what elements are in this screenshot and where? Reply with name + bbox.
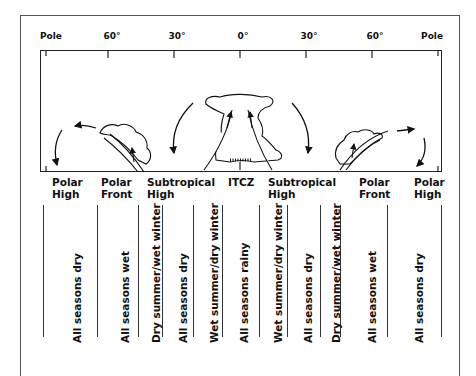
precipitation-regime-label: Dry summer/wet winter bbox=[330, 203, 342, 343]
precipitation-regime-label: All seasons rainy bbox=[238, 243, 250, 343]
pressure-zone-label: PolarFront bbox=[359, 176, 390, 200]
zone-name-line1: Polar bbox=[414, 176, 445, 188]
precipitation-regime-label: Dry summer/wet winter bbox=[150, 203, 162, 343]
itcz-cloud bbox=[204, 94, 282, 170]
zone-name-line2: High bbox=[147, 188, 215, 200]
zone-name-line2: High bbox=[52, 188, 83, 200]
right-polar-circulation bbox=[397, 129, 425, 166]
column-divider bbox=[259, 205, 260, 337]
pressure-zone-label: SubtropicalHigh bbox=[147, 176, 215, 200]
precipitation-regime-label: All seasons wet bbox=[119, 251, 131, 343]
pressure-zone-label: PolarFront bbox=[101, 176, 132, 200]
column-divider bbox=[43, 205, 44, 337]
column-divider bbox=[287, 205, 288, 337]
precipitation-regime-label: All seasons dry bbox=[413, 253, 425, 343]
zone-name-line1: ITCZ bbox=[228, 176, 254, 188]
column-divider bbox=[320, 205, 321, 337]
zone-name-line1: Polar bbox=[101, 176, 132, 188]
column-divider bbox=[193, 205, 194, 337]
right-polar-front-cloud bbox=[335, 130, 388, 170]
pressure-zone-label: PolarHigh bbox=[414, 176, 445, 200]
zone-name-line2: Front bbox=[101, 188, 132, 200]
zone-name-line2: High bbox=[414, 188, 445, 200]
column-divider bbox=[441, 205, 442, 337]
zone-name-line1: Polar bbox=[359, 176, 390, 188]
precipitation-regime-label: All seasons dry bbox=[71, 253, 83, 343]
pressure-zone-label: ITCZ bbox=[228, 176, 254, 188]
column-divider bbox=[138, 205, 139, 337]
left-polar-front-cloud bbox=[100, 124, 151, 172]
column-divider bbox=[162, 205, 163, 337]
column-divider bbox=[97, 205, 98, 337]
zone-name-line2: Front bbox=[359, 188, 390, 200]
pressure-zone-label: PolarHigh bbox=[52, 176, 83, 200]
precipitation-regime-label: All seasons dry bbox=[177, 253, 189, 343]
precipitation-regime-label: All seasons wet bbox=[366, 251, 378, 343]
column-divider bbox=[222, 205, 223, 337]
precipitation-regime-label: Wet summer/dry winter bbox=[272, 203, 284, 343]
precipitation-regime-label: All seasons dry bbox=[302, 253, 314, 343]
zone-name-line1: Subtropical bbox=[268, 176, 336, 188]
precipitation-regime-label: Wet summer/dry winter bbox=[208, 203, 220, 343]
column-divider bbox=[387, 205, 388, 337]
zone-name-line1: Polar bbox=[52, 176, 83, 188]
zone-name-line2: High bbox=[268, 188, 336, 200]
pressure-zone-label: SubtropicalHigh bbox=[268, 176, 336, 200]
zone-name-line1: Subtropical bbox=[147, 176, 215, 188]
left-polar-circulation bbox=[55, 125, 96, 165]
